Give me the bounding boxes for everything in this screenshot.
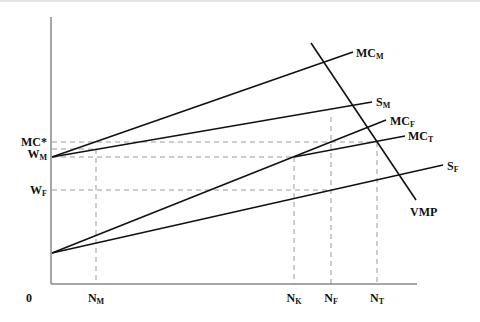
x-axis-label: NT [370, 291, 385, 306]
x-axis-label: NK [287, 291, 303, 306]
dashed-guides [52, 117, 377, 284]
x-axis-label: NM [88, 291, 105, 306]
curve-label: MCM [356, 46, 384, 61]
curve-sm [52, 102, 372, 157]
curve-label: SF [447, 159, 459, 174]
curve-label: MCF [390, 114, 415, 129]
y-axis-label: WF [30, 183, 47, 198]
labor-market-diagram: 0 MC*WMWFNMNKNFNTMCMSMMCFMCTSFVMP [0, 0, 480, 322]
curve-sf [52, 165, 443, 253]
x-axis-label: NF [324, 291, 338, 306]
curve-label: MCT [408, 129, 434, 144]
curve-label: VMP [410, 205, 437, 219]
y-axis-label: WM [27, 147, 47, 162]
curve-label: SM [376, 95, 391, 110]
curve-mct [294, 136, 405, 157]
curves [52, 43, 443, 253]
curve-mcm [52, 52, 353, 157]
origin-label: 0 [26, 291, 32, 305]
